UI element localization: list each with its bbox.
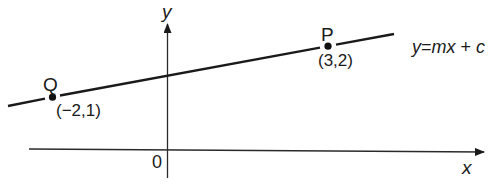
equation-y: y xyxy=(412,37,421,57)
equation-c: c xyxy=(476,37,485,57)
equation-mx: mx xyxy=(432,37,456,57)
equation-plus: + xyxy=(456,37,477,57)
line-equation-label: y=mx + c xyxy=(412,38,485,56)
coordinate-diagram: y x 0 Q (−2,1) P (3,2) y=mx + c xyxy=(0,0,497,184)
point-p-coordinates: (3,2) xyxy=(318,52,353,69)
equation-equals: = xyxy=(421,37,432,57)
origin-label: 0 xyxy=(152,153,162,171)
x-axis xyxy=(29,149,484,152)
diagram-canvas xyxy=(0,0,497,184)
y-axis-label: y xyxy=(162,2,172,21)
point-q-name: Q xyxy=(43,75,58,94)
line-segment-middle xyxy=(60,48,320,96)
line-segment-left xyxy=(8,99,45,106)
x-axis-label: x xyxy=(462,158,472,177)
line-segment-right xyxy=(336,34,394,45)
point-q-coordinates: (−2,1) xyxy=(56,102,101,119)
line-y-mx-c xyxy=(8,34,394,106)
point-p-name: P xyxy=(321,25,334,44)
